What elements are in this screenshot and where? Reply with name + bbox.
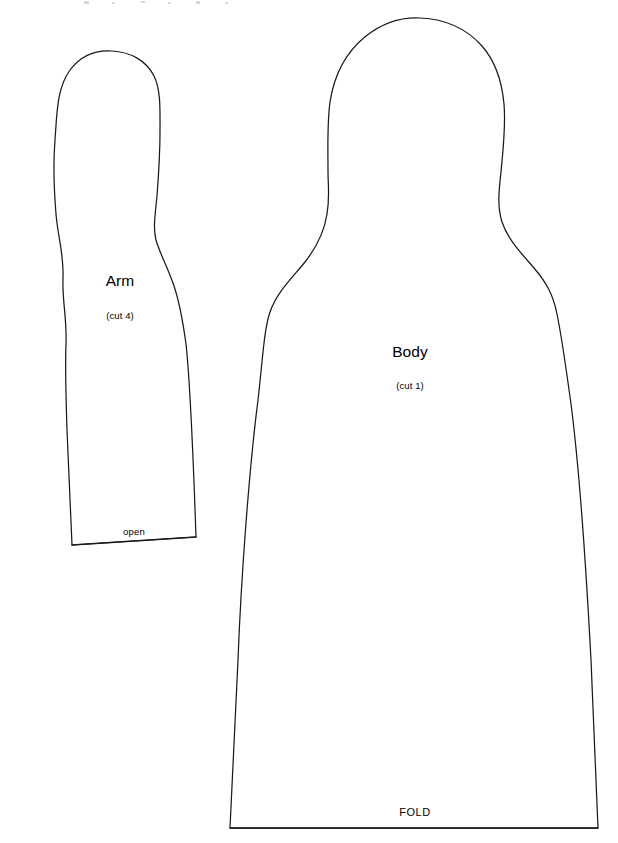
- arm-piece-outline: [54, 51, 196, 545]
- body-piece-outline: [230, 18, 598, 828]
- pattern-sheet: Arm (cut 4) open Body (cut 1) FOLD: [0, 0, 618, 843]
- pattern-drawing: [0, 0, 618, 843]
